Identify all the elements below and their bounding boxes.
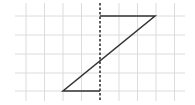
diagram-canvas	[0, 0, 195, 105]
